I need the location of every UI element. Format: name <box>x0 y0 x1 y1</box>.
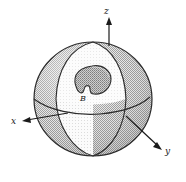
cavity-B <box>75 66 111 94</box>
region-b-label: B <box>80 95 86 103</box>
y-axis-label: y <box>165 147 170 156</box>
z-axis <box>106 17 112 46</box>
z-axis-arrowhead <box>106 17 112 25</box>
x-axis-label: x <box>11 117 16 126</box>
cavity-outline <box>75 66 111 94</box>
z-axis-label: z <box>104 7 109 16</box>
sphere-diagram-svg <box>0 0 186 182</box>
figure-container: z x y B <box>0 0 186 182</box>
x-axis-arrowhead <box>22 117 31 123</box>
